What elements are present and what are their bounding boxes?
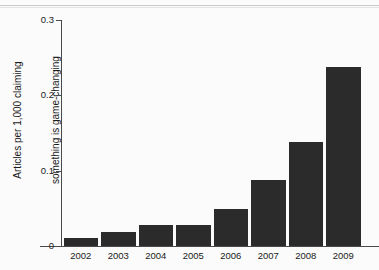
x-axis-tick-label-2006: 2006 bbox=[212, 250, 250, 261]
x-axis-line bbox=[40, 246, 379, 247]
bar-2007[interactable] bbox=[251, 180, 286, 246]
x-axis-tick-label-2009: 2009 bbox=[325, 250, 363, 261]
bar-slot bbox=[62, 20, 100, 246]
y-axis-tick-mark bbox=[56, 95, 61, 96]
bar-slot bbox=[137, 20, 175, 246]
bar-slot bbox=[325, 20, 363, 246]
y-axis-tick-label-wrap: 0.1 bbox=[0, 166, 54, 176]
y-axis-tick-label-wrap: 0.2 bbox=[0, 90, 54, 100]
x-axis-tick-label-2002: 2002 bbox=[62, 250, 100, 261]
bar-slot bbox=[212, 20, 250, 246]
x-axis-tick-label-2005: 2005 bbox=[175, 250, 213, 261]
plot-area bbox=[62, 20, 362, 246]
y-axis-tick-label: 0.1 bbox=[10, 166, 54, 176]
bar-2005[interactable] bbox=[176, 225, 211, 246]
bar-slot bbox=[250, 20, 288, 246]
bar-slot bbox=[175, 20, 213, 246]
x-axis-tick-label-2008: 2008 bbox=[287, 250, 325, 261]
y-axis-tick-label-wrap: 0 bbox=[0, 241, 54, 251]
bar-2002[interactable] bbox=[64, 238, 99, 246]
y-axis-tick-label-wrap: 0.3 bbox=[0, 15, 54, 25]
title-cutoff-rule bbox=[0, 5, 379, 6]
bar-2008[interactable] bbox=[289, 142, 324, 246]
y-axis-tick-mark bbox=[56, 20, 61, 21]
title-cutoff-rule-secondary bbox=[0, 7, 379, 8]
chart-figure: Articles per 1,000 claiming something is… bbox=[0, 0, 379, 270]
bar-slot bbox=[100, 20, 138, 246]
x-axis-tick-label-2004: 2004 bbox=[137, 250, 175, 261]
y-axis-tick-label: 0 bbox=[10, 241, 54, 251]
y-axis-tick-label: 0.2 bbox=[10, 90, 54, 100]
x-axis-tick-label-2007: 2007 bbox=[250, 250, 288, 261]
y-axis-tick-mark bbox=[56, 246, 61, 247]
bar-2009[interactable] bbox=[326, 67, 361, 246]
y-axis-title-line-1: Articles per 1,000 claiming bbox=[12, 20, 25, 220]
bar-2006[interactable] bbox=[214, 209, 249, 246]
y-axis-tick-mark bbox=[56, 171, 61, 172]
bar-2003[interactable] bbox=[101, 232, 136, 246]
y-axis-tick-label: 0.3 bbox=[10, 15, 54, 25]
x-axis-tick-label-2003: 2003 bbox=[100, 250, 138, 261]
bar-2004[interactable] bbox=[139, 225, 174, 246]
bar-slot bbox=[287, 20, 325, 246]
